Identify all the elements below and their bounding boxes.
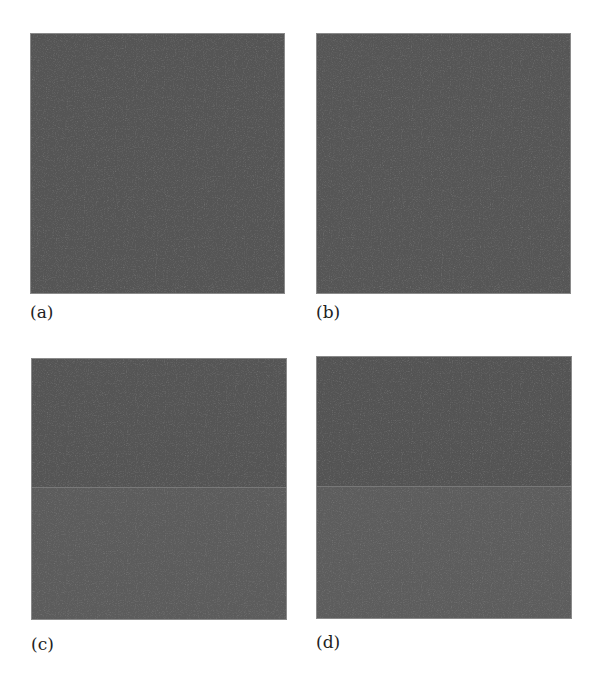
panel-c <box>31 358 287 620</box>
panel-b <box>316 33 571 294</box>
caption-a: (a) <box>30 304 53 321</box>
caption-b: (b) <box>316 304 340 321</box>
panel-b-texture <box>317 34 570 293</box>
panel-a-texture <box>31 34 284 293</box>
panel-a <box>30 33 285 294</box>
panel-d <box>316 356 572 619</box>
caption-c: (c) <box>31 636 54 653</box>
panel-d-texture-bottom <box>317 487 571 618</box>
panel-c-texture-bottom <box>32 488 286 619</box>
panel-c-texture-top <box>32 359 286 488</box>
caption-d: (d) <box>316 634 340 651</box>
panel-c-seam <box>32 487 286 488</box>
panel-d-texture-top <box>317 357 571 487</box>
panel-d-seam <box>317 486 571 487</box>
